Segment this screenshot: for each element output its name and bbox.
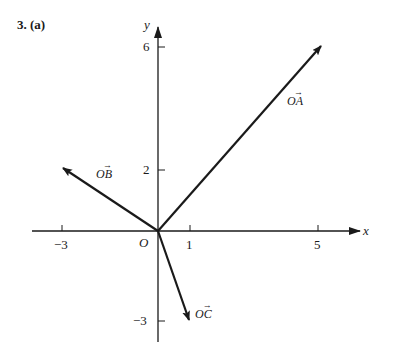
problem-number-text: 3.: [17, 17, 27, 32]
x-tick-label-neg3: −3: [54, 238, 68, 251]
vector-label-OB: → OB: [96, 168, 112, 180]
vector-label-OC: → OC: [195, 308, 212, 320]
x-tick-label-1: 1: [186, 238, 193, 251]
y-tick-label-6: 6: [143, 40, 150, 53]
y-axis-label: y: [144, 18, 150, 31]
vector-OC: [158, 231, 189, 320]
vector-arrow-icon: →: [98, 161, 112, 170]
problem-part-text: (a): [30, 17, 45, 32]
y-tick-label-2: 2: [143, 163, 150, 176]
problem-number: 3. (a): [17, 18, 45, 31]
vector-label-OA: → OA: [287, 95, 303, 107]
vector-OA: [158, 46, 321, 231]
vector-arrow-icon: →: [197, 301, 212, 310]
vector-arrow-icon: →: [289, 88, 303, 97]
origin-label: O: [139, 236, 148, 249]
x-tick-label-5: 5: [314, 238, 321, 251]
y-tick-label-neg3: −3: [133, 314, 147, 327]
x-axis-label: x: [363, 224, 369, 237]
